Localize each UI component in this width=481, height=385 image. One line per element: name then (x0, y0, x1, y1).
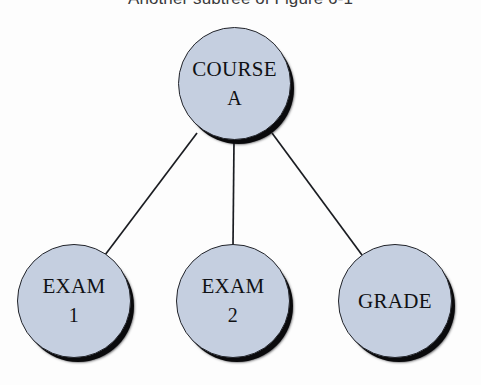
exam-1-node-label-line1: EXAM (42, 275, 105, 298)
edge-root-to-grade (272, 133, 362, 255)
root-node-label-line2: A (227, 88, 242, 110)
grade-node-label-line1: GRADE (358, 290, 432, 313)
figure-caption-clip: Another subtree of Figure 6-1 (0, 0, 481, 11)
edge-root-to-exam-2 (233, 141, 234, 245)
exam-1-node[interactable]: EXAM 1 (17, 244, 131, 358)
figure-caption: Another subtree of Figure 6-1 (0, 0, 481, 9)
root-node-label-line1: COURSE (192, 58, 277, 81)
exam-1-node-label-line2: 1 (69, 305, 79, 327)
root-node[interactable]: COURSE A (178, 27, 291, 140)
exam-2-node-label-line1: EXAM (201, 275, 264, 298)
exam-2-node[interactable]: EXAM 2 (176, 244, 290, 358)
edge-root-to-exam-1 (105, 133, 197, 255)
grade-node[interactable]: GRADE (338, 244, 452, 358)
figure-canvas: Another subtree of Figure 6-1 COURSE A E… (0, 0, 481, 385)
exam-2-node-label-line2: 2 (228, 305, 238, 327)
